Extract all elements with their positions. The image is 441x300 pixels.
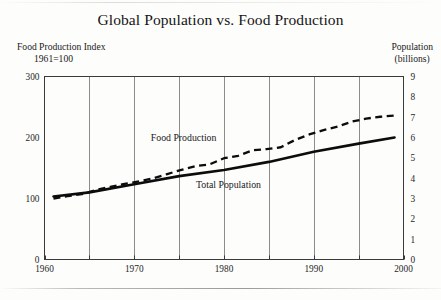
y-axis-right-labels: 0123456789 bbox=[411, 72, 416, 265]
ytick-label-right-2: 2 bbox=[411, 214, 416, 224]
xtick-label-1970: 1970 bbox=[125, 264, 144, 274]
ytick-label-right-8: 8 bbox=[411, 92, 416, 102]
ytick-label-right-4: 4 bbox=[411, 174, 416, 184]
xtick-label-1960: 1960 bbox=[35, 264, 54, 274]
ytick-label-right-3: 3 bbox=[411, 194, 416, 204]
ytick-label-right-1: 1 bbox=[411, 235, 416, 245]
tick-marks bbox=[46, 256, 405, 260]
annotation-total-population: Total Population bbox=[196, 179, 261, 190]
xtick-label-1980: 1980 bbox=[215, 264, 234, 274]
gridlines bbox=[90, 77, 360, 260]
ytick-label-left-300: 300 bbox=[26, 72, 40, 82]
annotation-food-production: Food Production bbox=[151, 132, 217, 143]
xtick-label-2000: 2000 bbox=[394, 264, 413, 274]
series-annotations: Food ProductionTotal Population bbox=[151, 132, 261, 190]
ytick-label-right-5: 5 bbox=[411, 153, 416, 163]
xtick-label-1990: 1990 bbox=[304, 264, 323, 274]
ytick-label-left-100: 100 bbox=[26, 194, 40, 204]
plot-frame bbox=[45, 77, 404, 260]
ytick-label-right-6: 6 bbox=[411, 133, 416, 143]
plot-canvas: 0100200300 0123456789 196019701980199020… bbox=[0, 0, 441, 300]
chart-figure: Global Population vs. Food Production Fo… bbox=[0, 0, 441, 300]
ytick-label-right-7: 7 bbox=[411, 113, 416, 123]
ytick-label-right-9: 9 bbox=[411, 72, 416, 82]
x-axis-labels: 19601970198019902000 bbox=[35, 264, 413, 274]
page-bottom-edge bbox=[0, 288, 441, 289]
ytick-label-left-200: 200 bbox=[26, 133, 40, 143]
y-axis-left-labels: 0100200300 bbox=[26, 72, 40, 265]
